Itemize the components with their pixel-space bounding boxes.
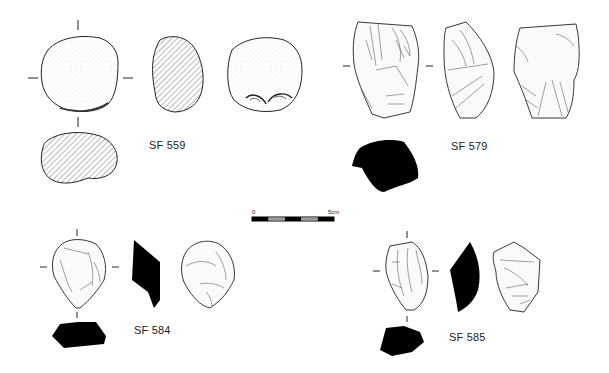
sf559-plan-section <box>41 133 117 184</box>
sf559-profile-section <box>153 37 204 112</box>
scale-start-label: 0 <box>252 209 255 215</box>
sf559-face-view <box>41 37 118 112</box>
sf559-label: SF 559 <box>149 139 186 151</box>
sf584-reverse-view <box>182 241 235 308</box>
sf579-side-view <box>444 22 494 118</box>
sf559-reverse-view <box>228 38 302 112</box>
sf585-label: SF 585 <box>449 331 486 343</box>
scale-end-label: 5cm <box>328 209 339 215</box>
sf585-profile-section <box>450 242 480 312</box>
artifact-plate <box>0 0 609 373</box>
sf579-face-view <box>353 22 419 118</box>
sf584-face-view <box>52 240 105 309</box>
sf584-plan-section <box>52 322 106 348</box>
sf559-group <box>28 20 302 183</box>
sf585-reverse-view <box>493 242 540 312</box>
sf579-label: SF 579 <box>451 140 488 152</box>
sf579-plan-section <box>352 140 418 192</box>
sf585-plan-section <box>380 326 424 356</box>
sf584-label: SF 584 <box>134 324 171 336</box>
sf579-group <box>343 22 579 192</box>
scale-bar <box>252 217 334 221</box>
sf584-profile-section <box>132 240 160 308</box>
sf585-face-view <box>386 242 428 310</box>
sf579-reverse-view <box>514 24 579 118</box>
